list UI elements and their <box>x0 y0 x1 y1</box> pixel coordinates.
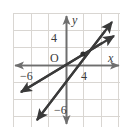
coordinate-plane-figure: y x O 4 −6 −6 4 <box>0 0 126 129</box>
y-tick-label-4: 4 <box>51 31 57 45</box>
x-tick-label-neg6: −6 <box>20 69 33 83</box>
origin-label: O <box>50 51 59 65</box>
x-axis-label: x <box>107 51 114 65</box>
series-line-1 <box>21 36 114 92</box>
graph-svg: y x O 4 −6 −6 4 <box>0 0 126 129</box>
intersection-point <box>80 51 85 56</box>
y-axis-label: y <box>71 13 78 27</box>
y-tick-label-neg6: −6 <box>54 103 67 117</box>
x-tick-label-4: 4 <box>81 69 87 83</box>
line-1-right-ray <box>21 36 114 92</box>
